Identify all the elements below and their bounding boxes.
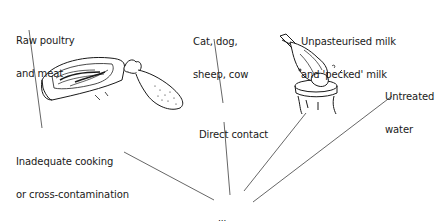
node-raw-line1: Raw poultry [16,35,75,46]
node-animals-line2: sheep, cow [193,69,248,80]
node-water-line2: water [385,124,434,135]
node-unpasteurised-milk: Unpasteurised milk and 'pecked' milk [301,14,396,91]
node-illness: Illness [218,197,249,221]
node-direct-contact: Direct contact [199,107,268,151]
node-cooking-line1: Inadequate cooking [16,156,129,167]
node-milk-line1: Unpasteurised milk [301,36,396,47]
node-animals: Cat, dog, sheep, cow [193,14,248,91]
node-milk-line2: and 'pecked' milk [301,69,396,80]
node-cooking-line2: or cross-contamination [16,189,129,200]
node-raw-poultry: Raw poultry and meat [16,13,75,90]
node-illness-line1: Illness [218,219,249,221]
node-animals-line1: Cat, dog, [193,36,248,47]
node-inadequate-cooking: Inadequate cooking or cross-contaminatio… [16,134,129,211]
edge-cooking-to-illness [124,152,214,200]
node-water-line1: Untreated [385,91,434,102]
node-direct-line1: Direct contact [199,129,268,140]
edge-water-to-illness [253,96,392,202]
node-raw-line2: and meat [16,68,75,79]
node-untreated-water: Untreated water [385,69,434,146]
